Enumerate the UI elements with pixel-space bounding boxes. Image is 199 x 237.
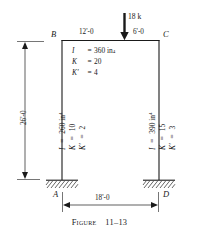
- left-column-prop-value-Kprime: 2: [78, 126, 87, 130]
- dimension-span: 18'-0: [95, 195, 109, 202]
- right-column-prop-equals-Kprime: =: [168, 131, 177, 141]
- left-column-prop-exponent-I: 4: [58, 112, 63, 115]
- left-column-prop-row-I: I = 260 in4: [58, 112, 67, 150]
- beam-prop-row-I: I = 360 in 4: [72, 46, 115, 55]
- node-label-C: C: [163, 30, 169, 39]
- left-column-prop-symbol-I: I: [58, 148, 67, 150]
- node-label-B: B: [51, 30, 56, 39]
- right-column-prop-equals-K: =: [158, 133, 167, 143]
- node-label-D: D: [163, 190, 169, 199]
- beam-prop-symbol-K: K: [72, 57, 85, 66]
- right-column-prop-symbol-Kprime: K′: [168, 143, 177, 150]
- support-A-fixed: [46, 180, 78, 188]
- beam-prop-value-K: 20: [94, 57, 101, 66]
- beam-prop-row-K: K = 20: [72, 57, 101, 66]
- span-dimension-line: [63, 192, 159, 212]
- left-column-prop-value-K: 10: [68, 124, 77, 131]
- left-column-prop-equals-K: =: [68, 133, 77, 143]
- figure-container: B C A D 18 k 12'-0 6'-0 18'-0 26'-0 I = …: [0, 0, 199, 237]
- right-column-prop-row-I: I = 390 in4: [148, 112, 157, 150]
- left-column-prop-symbol-Kprime: K′: [78, 143, 87, 150]
- beam-prop-row-Kprime: K′ = 4: [72, 68, 98, 77]
- right-column-prop-exponent-I: 4: [148, 112, 153, 115]
- right-column-prop-value-Kprime: 3: [168, 126, 177, 130]
- figure-caption: Figure 11–13: [0, 218, 199, 227]
- point-load-label: 18 k: [128, 13, 141, 21]
- beam-prop-symbol-I: I: [72, 46, 85, 55]
- right-column-prop-value-I: 390 in: [148, 115, 157, 134]
- dimension-beam-left-segment: 12'-0: [79, 29, 93, 36]
- right-column-prop-equals-I: =: [148, 136, 157, 146]
- left-column-prop-equals-I: =: [58, 136, 67, 146]
- beam-prop-equals-Kprime: =: [85, 68, 94, 77]
- right-column-prop-row-K: K = 15: [158, 124, 167, 150]
- beam-prop-value-Kprime: 4: [94, 68, 98, 77]
- left-column-prop-value-I: 260 in: [58, 115, 67, 134]
- beam-prop-value-I: 360 in: [94, 46, 113, 55]
- dimension-height: 26'-0: [20, 111, 28, 125]
- figure-caption-prefix: Figure: [72, 218, 97, 227]
- left-column-prop-row-K: K = 10: [68, 124, 77, 150]
- left-column-prop-equals-Kprime: =: [78, 131, 87, 141]
- beam-prop-equals-I: =: [85, 46, 94, 55]
- node-label-A: A: [53, 190, 58, 199]
- beam-prop-symbol-Kprime: K′: [72, 68, 85, 77]
- right-column-prop-symbol-I: I: [148, 148, 157, 150]
- dimension-beam-right-segment: 6'-0: [133, 29, 144, 36]
- support-D-fixed: [143, 180, 175, 188]
- right-column-prop-row-Kprime: K′ = 3: [168, 126, 177, 150]
- left-column-prop-row-Kprime: K′ = 2: [78, 126, 87, 150]
- right-column-prop-value-K: 15: [158, 124, 167, 131]
- figure-caption-number: 11–13: [105, 218, 127, 227]
- right-column-prop-symbol-K: K: [158, 145, 167, 150]
- left-column-prop-symbol-K: K: [68, 145, 77, 150]
- beam-prop-equals-K: =: [85, 57, 94, 66]
